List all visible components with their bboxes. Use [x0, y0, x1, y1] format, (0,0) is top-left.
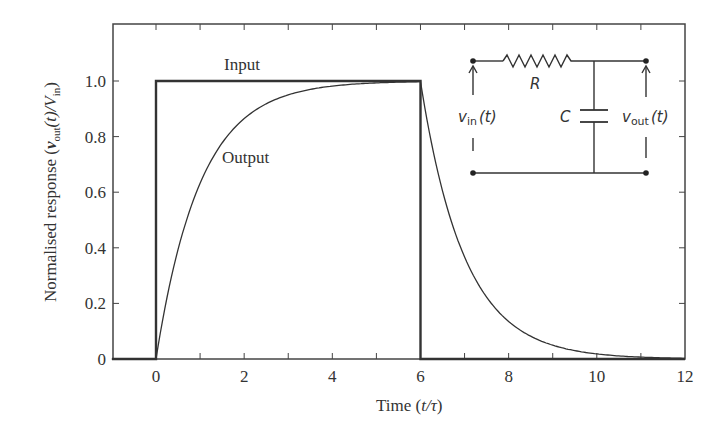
y-tick-label: 0.8 [85, 128, 106, 147]
vin-label: vin(t) [458, 108, 497, 128]
x-tick-labels: 024681012 [152, 367, 694, 386]
output-series-line [112, 82, 685, 359]
x-tick-label: 12 [676, 367, 693, 386]
x-tick-label: 8 [504, 367, 513, 386]
x-tick-label: 0 [152, 367, 161, 386]
vout-label: vout(t) [622, 108, 669, 128]
x-axis-label: Time (t/τ) [376, 396, 442, 415]
y-tick-labels: 00.20.40.60.81.0 [85, 72, 107, 369]
x-tick-label: 6 [416, 367, 425, 386]
x-tick-label: 4 [328, 367, 337, 386]
y-tick-label: 1.0 [85, 72, 106, 91]
x-tick-label: 10 [588, 367, 605, 386]
y-tick-label: 0 [98, 350, 107, 369]
x-tick-label: 2 [240, 367, 249, 386]
resistor-label: R [530, 75, 540, 93]
y-tick-label: 0.6 [85, 183, 106, 202]
output-annotation: Output [222, 148, 270, 167]
y-axis-label: Normalised response (vout(t)/Vin) [41, 82, 62, 302]
resistor-icon [503, 55, 573, 67]
y-tick-label: 0.2 [85, 294, 106, 313]
plot-frame [113, 24, 685, 359]
input-annotation: Input [224, 55, 260, 74]
capacitor-label: C [560, 108, 571, 126]
axis-ticks [113, 24, 685, 359]
y-tick-label: 0.4 [85, 239, 107, 258]
chart: 024681012 00.20.40.60.81.0 Input Output … [0, 0, 726, 442]
